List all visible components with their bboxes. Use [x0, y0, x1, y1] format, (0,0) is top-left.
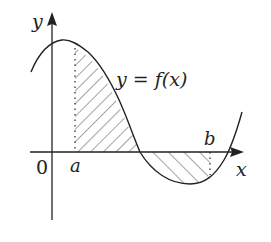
a-label: a: [70, 155, 81, 176]
function-label: y = f(x): [115, 68, 187, 90]
x-axis-label: x: [236, 158, 247, 180]
b-label: b: [204, 128, 216, 149]
shaded-region-negative: [140, 152, 210, 184]
shaded-region-positive: [75, 48, 140, 152]
y-axis-arrow-icon: [47, 12, 57, 26]
x-axis-arrow-icon: [230, 147, 244, 157]
y-axis-label: y: [31, 10, 43, 32]
origin-label: 0: [36, 156, 48, 178]
function-curve: [31, 40, 242, 184]
function-diagram: y x 0 a b y = f(x): [0, 0, 271, 242]
